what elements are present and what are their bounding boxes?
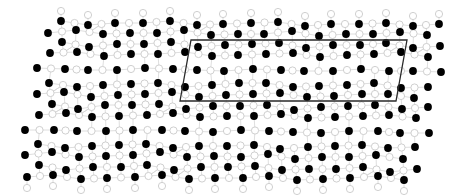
black-atom xyxy=(412,114,420,122)
black-atom xyxy=(329,41,337,49)
black-atom xyxy=(332,165,340,173)
black-atom xyxy=(372,151,380,159)
white-atom xyxy=(101,92,108,99)
black-atom xyxy=(210,152,218,160)
black-atom xyxy=(371,101,379,109)
white-atom xyxy=(172,173,179,180)
white-atom xyxy=(277,104,284,111)
black-atom xyxy=(409,22,417,30)
white-atom xyxy=(357,80,364,87)
white-atom xyxy=(185,186,192,193)
black-atom xyxy=(143,111,151,119)
black-atom xyxy=(370,79,378,87)
white-atom xyxy=(385,128,392,135)
black-atom xyxy=(318,153,326,161)
black-atom xyxy=(88,142,96,150)
black-atom xyxy=(73,127,81,135)
black-atom xyxy=(143,161,151,169)
white-atom xyxy=(396,21,403,28)
white-atom xyxy=(248,51,255,58)
white-atom xyxy=(265,164,272,171)
black-atom xyxy=(139,19,147,27)
black-atom xyxy=(46,49,54,57)
black-atom xyxy=(289,128,297,136)
black-atom xyxy=(396,129,404,137)
black-atom xyxy=(211,174,219,182)
white-atom xyxy=(62,151,69,158)
black-atom xyxy=(300,67,308,75)
white-atom xyxy=(115,101,122,108)
black-atom xyxy=(99,30,107,38)
black-atom xyxy=(330,92,338,100)
white-atom xyxy=(318,143,325,150)
white-atom xyxy=(219,10,226,17)
black-atom xyxy=(237,126,245,134)
black-atom xyxy=(355,20,363,28)
black-atom xyxy=(288,27,296,35)
black-atom xyxy=(384,90,392,98)
black-atom xyxy=(60,88,68,96)
white-atom xyxy=(36,172,43,179)
black-atom xyxy=(33,90,41,98)
white-atom xyxy=(398,144,405,151)
white-atom xyxy=(221,31,228,38)
white-atom xyxy=(129,141,136,148)
black-atom xyxy=(436,42,444,50)
white-atom xyxy=(345,142,352,149)
black-atom xyxy=(87,93,95,101)
white-atom xyxy=(209,142,216,149)
black-atom xyxy=(85,43,93,51)
black-atom xyxy=(248,40,256,48)
white-atom xyxy=(221,52,228,59)
black-atom xyxy=(327,20,335,28)
white-atom xyxy=(140,29,147,36)
black-atom xyxy=(33,64,41,72)
black-atom xyxy=(303,93,311,101)
black-atom xyxy=(331,113,339,121)
white-atom xyxy=(247,9,254,16)
black-atom xyxy=(276,89,284,97)
white-atom xyxy=(61,103,68,110)
white-atom xyxy=(397,92,404,99)
white-atom xyxy=(279,174,286,181)
white-atom xyxy=(411,84,418,91)
white-atom xyxy=(59,81,66,88)
white-atom xyxy=(84,11,91,18)
black-atom xyxy=(88,113,96,121)
white-atom xyxy=(422,21,429,28)
white-atom xyxy=(357,51,364,58)
white-atom xyxy=(301,12,308,19)
white-atom xyxy=(99,42,106,49)
white-atom xyxy=(306,176,313,183)
white-atom xyxy=(194,29,201,36)
white-atom xyxy=(371,90,378,97)
white-atom xyxy=(74,91,81,98)
white-atom xyxy=(36,126,43,133)
black-atom xyxy=(399,155,407,163)
white-atom xyxy=(302,30,309,37)
white-atom xyxy=(58,28,65,35)
white-atom xyxy=(247,30,254,37)
black-atom xyxy=(102,127,110,135)
black-atom xyxy=(48,100,56,108)
black-atom xyxy=(142,140,150,148)
white-atom xyxy=(304,105,311,112)
black-atom xyxy=(169,144,177,152)
white-atom xyxy=(373,166,380,173)
white-atom xyxy=(139,9,146,16)
black-atom xyxy=(289,83,297,91)
white-atom xyxy=(319,186,326,193)
black-atom xyxy=(117,163,125,171)
black-atom xyxy=(262,79,270,87)
black-atom xyxy=(21,151,29,159)
black-atom xyxy=(62,109,70,117)
white-atom xyxy=(360,173,367,180)
white-atom xyxy=(90,175,97,182)
black-atom xyxy=(331,142,339,150)
black-atom xyxy=(385,67,393,75)
white-atom xyxy=(63,173,70,180)
white-atom xyxy=(386,153,393,160)
white-atom xyxy=(410,30,417,37)
black-atom xyxy=(315,32,323,40)
black-atom xyxy=(193,66,201,74)
